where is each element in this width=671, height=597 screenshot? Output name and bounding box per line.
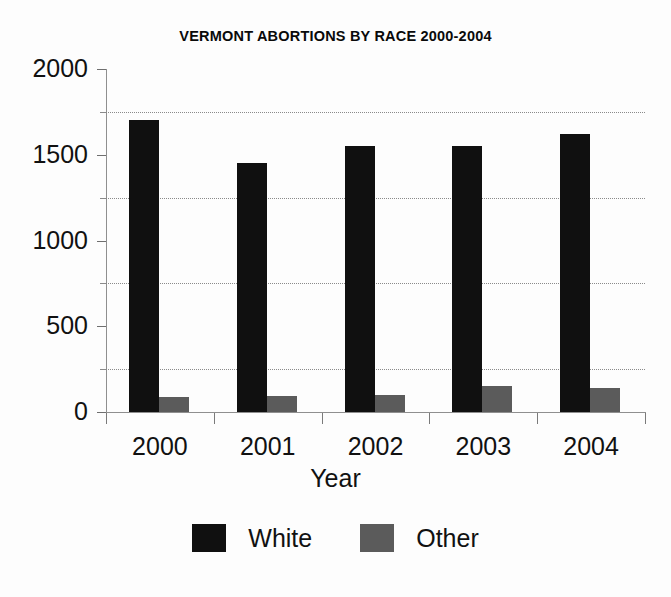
bar-other-2002	[375, 395, 405, 412]
x-tick-label-2001: 2001	[213, 432, 323, 460]
chart-container: VERMONT ABORTIONS BY RACE 2000-2004 0500…	[0, 0, 671, 597]
y-tick-major	[97, 69, 106, 70]
x-tick	[537, 413, 538, 424]
x-axis-title: Year	[0, 464, 671, 493]
x-tick	[645, 413, 646, 424]
y-tick-major	[97, 155, 106, 156]
x-tick-label-2002: 2002	[321, 432, 431, 460]
y-tick-minor	[100, 112, 106, 113]
y-tick-label: 1000	[0, 228, 88, 253]
y-tick-minor	[100, 283, 106, 284]
bar-white-2000	[129, 120, 159, 412]
chart-title: VERMONT ABORTIONS BY RACE 2000-2004	[0, 28, 671, 44]
bar-white-2001	[237, 163, 267, 412]
y-tick-major	[97, 412, 106, 413]
x-tick-label-2000: 2000	[105, 432, 215, 460]
y-tick-major	[97, 241, 106, 242]
bar-white-2004	[560, 134, 590, 412]
x-tick	[322, 413, 323, 424]
legend-label-other: Other	[416, 526, 479, 551]
y-tick-label: 500	[0, 313, 88, 338]
bar-other-2004	[590, 388, 620, 412]
x-tick-label-2003: 2003	[428, 432, 538, 460]
bar-other-2001	[267, 396, 297, 412]
legend-label-white: White	[248, 526, 312, 551]
bar-white-2002	[345, 146, 375, 412]
x-tick	[214, 413, 215, 424]
y-tick-minor	[100, 369, 106, 370]
legend-item-white[interactable]: White	[192, 524, 312, 552]
bar-other-2003	[482, 386, 512, 412]
x-tick-label-2004: 2004	[536, 432, 646, 460]
y-tick-minor	[100, 198, 106, 199]
x-axis-line	[106, 412, 646, 413]
plot-area	[106, 69, 645, 412]
legend-swatch-other	[360, 524, 394, 552]
y-tick-label: 2000	[0, 56, 88, 81]
gridline	[106, 112, 645, 114]
legend-swatch-white	[192, 524, 226, 552]
chart-legend: WhiteOther	[0, 524, 671, 552]
x-tick	[106, 413, 107, 424]
y-tick-major	[97, 326, 106, 327]
bar-other-2000	[159, 397, 189, 412]
x-tick	[429, 413, 430, 424]
legend-item-other[interactable]: Other	[360, 524, 479, 552]
y-tick-label: 1500	[0, 142, 88, 167]
bar-white-2003	[452, 146, 482, 412]
y-tick-label: 0	[0, 399, 88, 424]
